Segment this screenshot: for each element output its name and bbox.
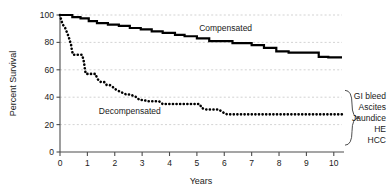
brace-item-ascites: Ascites [359, 102, 386, 112]
y-tick-label: 0 [49, 147, 54, 157]
survival-chart-figure: 020406080100 012345678910 CompensatedDec… [0, 0, 388, 189]
x-tick-label: 8 [277, 158, 282, 168]
brace-item-he: HE [374, 124, 386, 134]
x-tick-label: 10 [329, 158, 339, 168]
y-tick-label: 20 [45, 120, 55, 130]
chart-canvas: 020406080100 012345678910 CompensatedDec… [0, 0, 388, 189]
brace-item-hcc: HCC [368, 135, 386, 145]
series-label-decompensated: Decompensated [99, 106, 161, 116]
x-axis-title: Years [190, 176, 213, 186]
y-tick-label: 80 [45, 37, 55, 47]
x-tick-label: 7 [249, 158, 254, 168]
x-tick-label: 1 [85, 158, 90, 168]
x-tick-label: 9 [304, 158, 309, 168]
y-tick-label: 40 [45, 92, 55, 102]
y-tick-label: 100 [40, 10, 54, 20]
x-tick-label: 3 [140, 158, 145, 168]
y-axis-title: Percent Survival [8, 51, 18, 117]
x-tick-label: 2 [112, 158, 117, 168]
brace-item-gi-bleed: GI bleed [354, 91, 386, 101]
x-tick-label: 6 [222, 158, 227, 168]
x-tick-label: 5 [195, 158, 200, 168]
y-tick-label: 60 [45, 65, 55, 75]
brace-item-jaundice: Jaundice [352, 113, 386, 123]
x-tick-label: 0 [58, 158, 63, 168]
x-tick-label: 4 [167, 158, 172, 168]
series-label-compensated: Compensated [199, 23, 252, 33]
